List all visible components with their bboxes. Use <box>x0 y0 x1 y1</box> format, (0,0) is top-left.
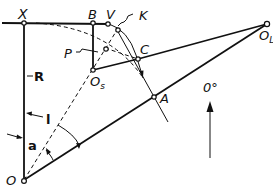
dashed-line-p-c <box>105 48 138 59</box>
label-b: B <box>88 7 97 22</box>
point-a <box>152 95 156 99</box>
label-k: K <box>139 8 149 23</box>
north-arrowhead-icon <box>207 101 214 112</box>
label-zero-degrees: 0° <box>203 80 218 95</box>
label-o: O <box>6 173 16 187</box>
point-p <box>104 47 108 51</box>
label-a: A <box>159 91 169 106</box>
point-ol <box>264 21 269 26</box>
label-x: X <box>17 6 28 22</box>
point-k <box>116 28 120 32</box>
label-v: V <box>106 7 116 22</box>
point-os <box>91 68 95 72</box>
label-a-angle: a <box>28 138 37 153</box>
a-arrowhead-icon <box>17 135 24 140</box>
point-o <box>22 179 27 184</box>
label-l: l <box>46 112 50 127</box>
label-c: C <box>140 42 150 57</box>
p-leader <box>76 49 98 52</box>
angle-arc-l <box>58 125 79 145</box>
k-leader <box>118 14 133 26</box>
l-arrowhead-icon <box>26 112 32 117</box>
point-c <box>136 57 140 61</box>
angle-arrowhead-2-icon <box>46 148 51 155</box>
geometry-diagram: X B V K P C Os OL A O R l a 0° <box>0 0 273 187</box>
label-os: Os <box>90 74 105 91</box>
label-p: P <box>64 46 72 61</box>
line-c-ol <box>138 24 267 59</box>
label-ol: OL <box>259 28 273 45</box>
label-r: R <box>34 69 44 84</box>
line-os-c <box>93 59 138 70</box>
point-v <box>106 22 110 26</box>
